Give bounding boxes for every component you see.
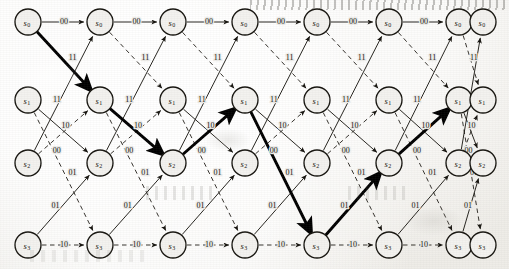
edge-label-s0-s1-stage-1: 11 (141, 53, 149, 62)
edge-label-s3-s3-stage-2: 10 (205, 240, 213, 249)
trellis-node-s1-col-6[interactable]: s1 (446, 87, 472, 113)
trellis-node-s0-col-5[interactable]: s0 (376, 9, 402, 35)
trellis-node-s3-col-4[interactable]: s3 (304, 232, 330, 258)
edge-label-s1-s2-stage-2: 10 (206, 121, 214, 130)
edge-label-s3-s2-stage-1: 01 (124, 201, 132, 210)
edge-label-s0-s0-stage-1: 00 (133, 17, 141, 26)
trellis-node-s2-col-1[interactable]: s2 (87, 150, 113, 176)
trellis-node-s2-col-7[interactable]: s2 (470, 150, 496, 176)
trellis-edge-s1-to-s3-stage-0 (34, 113, 93, 231)
edge-label-s0-s0-stage-0: 00 (60, 17, 68, 26)
trellis-node-s0-col-7[interactable]: s0 (470, 9, 496, 35)
trellis-node-s2-col-3[interactable]: s2 (232, 150, 258, 176)
trellis-node-s0-col-6[interactable]: s0 (446, 9, 472, 35)
trellis-node-s2-col-5[interactable]: s2 (376, 150, 402, 176)
edge-label-s0-s1-stage-3: 11 (286, 53, 294, 62)
trellis-node-s2-col-2[interactable]: s2 (160, 150, 186, 176)
trellis-node-s2-col-4[interactable]: s2 (304, 150, 330, 176)
survivor-path-segment-4 (326, 175, 378, 234)
edge-label-s1-s3-stage-5: 01 (428, 168, 436, 177)
trellis-edge-s1-to-s2-stage-0 (39, 109, 88, 152)
edge-label-s2-s0-stage-1: 11 (125, 95, 133, 104)
edge-label-s0-s1-stage-6: 11 (470, 53, 478, 62)
trellis-node-s1-col-3[interactable]: s1 (232, 87, 258, 113)
edge-label-s3-s3-stage-4: 10 (349, 240, 357, 249)
edge-label-s2-s1-stage-0: 00 (53, 146, 61, 155)
edge-label-s1-s3-stage-3: 01 (286, 168, 294, 177)
trellis-svg: 0000111111111010000001010101101000001111… (0, 0, 509, 269)
edge-label-s3-s3-stage-1: 10 (133, 240, 141, 249)
trellis-node-s0-col-0[interactable]: s0 (15, 9, 41, 35)
trellis-node-s1-col-7[interactable]: s1 (470, 87, 496, 113)
survivor-path-segment-1 (111, 109, 161, 152)
trellis-edge-s0-to-s1-stage-1 (110, 32, 162, 88)
trellis-node-s3-col-2[interactable]: s3 (160, 232, 186, 258)
edge-label-s0-s1-stage-2: 11 (214, 53, 222, 62)
trellis-edge-s2-to-s0-stage-0 (34, 36, 92, 150)
edge-label-s0-s1-stage-4: 11 (358, 53, 366, 62)
survivor-path-segment-0 (38, 32, 90, 88)
trellis-node-s3-col-0[interactable]: s3 (15, 232, 41, 258)
edge-label-s3-s2-stage-6: 01 (464, 201, 472, 210)
trellis-node-s0-col-1[interactable]: s0 (87, 9, 113, 35)
edge-label-s2-s1-stage-5: 00 (413, 146, 421, 155)
edge-label-s3-s2-stage-4: 01 (340, 201, 348, 210)
trellis-edge-s1-to-s2-stage-4 (328, 109, 377, 152)
edge-label-s1-s3-stage-4: 01 (358, 168, 366, 177)
edge-label-s1-s3-stage-1: 01 (141, 168, 149, 177)
edge-label-s1-s2-stage-0: 10 (61, 121, 69, 130)
edge-label-s1-s2-stage-4: 10 (350, 121, 358, 130)
edge-label-s2-s1-stage-2: 00 (198, 146, 206, 155)
trellis-edge-s2-to-s1-stage-4 (328, 111, 377, 154)
edge-label-s1-s2-stage-3: 10 (278, 121, 286, 130)
trellis-edge-s2-to-s0-stage-1 (106, 36, 165, 150)
trellis-edge-s0-to-s1-stage-3 (255, 32, 307, 88)
edge-label-s1-s3-stage-0: 01 (69, 168, 77, 177)
trellis-node-s3-col-3[interactable]: s3 (232, 232, 258, 258)
edge-label-s1-s3-stage-2: 01 (214, 168, 222, 177)
trellis-node-s1-col-2[interactable]: s1 (160, 87, 186, 113)
edge-label-s3-s2-stage-3: 01 (268, 201, 276, 210)
trellis-edge-s3-to-s2-stage-2 (182, 175, 234, 234)
trellis-node-s1-col-0[interactable]: s1 (15, 87, 41, 113)
edge-label-s0-s1-stage-5: 11 (429, 53, 437, 62)
edge-label-s1-s2-stage-5: 10 (421, 121, 429, 130)
trellis-edge-s2-to-s0-stage-4 (323, 36, 381, 150)
trellis-node-s0-col-3[interactable]: s0 (232, 9, 258, 35)
edge-label-s0-s0-stage-4: 00 (349, 17, 357, 26)
trellis-edge-s0-to-s1-stage-4 (327, 32, 379, 88)
edge-label-s3-s3-stage-5: 10 (420, 240, 428, 249)
trellis-node-s0-col-2[interactable]: s0 (160, 9, 186, 35)
trellis-node-s0-col-4[interactable]: s0 (304, 9, 330, 35)
survivor-path-segment-5 (399, 111, 447, 154)
edge-label-s3-s2-stage-5: 01 (412, 201, 420, 210)
edge-label-s2-s0-stage-2: 11 (198, 95, 206, 104)
trellis-node-s1-col-5[interactable]: s1 (376, 87, 402, 113)
edge-label-s1-s2-stage-6: 10 (468, 121, 476, 130)
trellis-node-s3-col-1[interactable]: s3 (87, 232, 113, 258)
edge-label-s0-s0-stage-5: 00 (420, 17, 428, 26)
trellis-edge-s1-to-s2-stage-3 (256, 109, 305, 152)
trellis-edge-s3-to-s2-stage-1 (109, 175, 162, 234)
trellis-node-s3-col-5[interactable]: s3 (376, 232, 402, 258)
survivor-path-segment-3 (251, 113, 310, 231)
edge-label-s3-s3-stage-3: 10 (277, 240, 285, 249)
trellis-edge-s2-to-s1-stage-0 (39, 111, 88, 154)
trellis-edges (34, 22, 480, 245)
edge-label-s0-s1-stage-0: 11 (69, 53, 77, 62)
edge-label-s2-s0-stage-4: 11 (342, 95, 350, 104)
trellis-node-s1-col-4[interactable]: s1 (304, 87, 330, 113)
survivor-path-segment-2 (184, 111, 233, 154)
trellis-node-s2-col-0[interactable]: s2 (15, 150, 41, 176)
trellis-node-s1-col-1[interactable]: s1 (87, 87, 113, 113)
edge-label-s0-s0-stage-2: 00 (205, 17, 213, 26)
trellis-node-s2-col-6[interactable]: s2 (446, 150, 472, 176)
edge-label-s1-s2-stage-1: 10 (134, 121, 142, 130)
edge-label-s2-s1-stage-1: 00 (125, 146, 133, 155)
trellis-edge-s3-to-s2-stage-0 (37, 175, 89, 234)
trellis-edge-s1-to-s3-stage-4 (323, 113, 382, 231)
trellis-node-s3-col-7[interactable]: s3 (470, 232, 496, 258)
trellis-node-s3-col-6[interactable]: s3 (446, 232, 472, 258)
edge-label-s3-s3-stage-0: 10 (60, 240, 68, 249)
trellis-figure: 0000111111111010000001010101101000001111… (0, 0, 509, 269)
